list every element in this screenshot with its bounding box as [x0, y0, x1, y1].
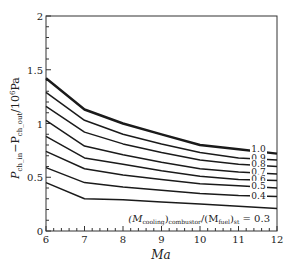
- y-label-sub1: ch_in: [16, 152, 24, 171]
- curve-0-7: [46, 120, 277, 174]
- curve-labels: 1.00.90.80.70.60.50.4: [250, 144, 267, 200]
- curve-label: 0.4: [251, 191, 266, 201]
- y-tick-label: 1.5: [27, 65, 43, 76]
- x-tick-label: 7: [81, 234, 87, 245]
- y-tick-label: 0: [37, 226, 43, 237]
- y-label-mid: −P: [9, 136, 22, 153]
- y-tick-label: 2: [37, 11, 43, 22]
- x-tick-label: 10: [194, 234, 207, 245]
- x-tick-label: 8: [120, 234, 126, 245]
- ratio-annotation: (Mcooling)combustor/(Mfuel)st = 0.3: [128, 213, 270, 226]
- curve-1-0: [46, 78, 277, 153]
- plot-frame: [46, 16, 277, 231]
- y-label-pa: Pa: [9, 77, 22, 91]
- curve-0-5: [46, 151, 277, 188]
- x-tick-label: 9: [158, 234, 164, 245]
- annotation-part: /(M: [201, 213, 219, 224]
- x-tick-label: 11: [232, 234, 245, 245]
- x-tick-label: 6: [43, 234, 49, 245]
- y-axis-label: Pch_in−Pch_out/106Pa: [9, 77, 24, 180]
- y-label-unit: /10: [9, 95, 22, 113]
- annotation-part: (M: [128, 213, 143, 224]
- axis-ticks: 678910111200.511.52: [27, 11, 283, 245]
- svg-text:Pch_in−Pch_out/106Pa: Pch_in−Pch_out/106Pa: [9, 77, 24, 180]
- y-tick-label: 1: [37, 119, 43, 130]
- data-curves: [46, 78, 277, 208]
- plot-border: [46, 16, 277, 231]
- x-axis-label: Ma: [150, 248, 170, 262]
- annotation-sub: fuel: [218, 218, 230, 225]
- curve-label: 0.5: [251, 181, 266, 191]
- x-tick-label: 12: [271, 234, 284, 245]
- annotation-sub: cooling: [142, 218, 164, 226]
- annotation-part: = 0.3: [239, 213, 270, 224]
- annotation-sub: combustor: [169, 218, 201, 225]
- y-tick-label: 0.5: [27, 172, 43, 183]
- y-label-sub2: ch_out: [16, 113, 24, 137]
- chart: 678910111200.511.52 1.00.90.80.70.60.50.…: [0, 0, 291, 268]
